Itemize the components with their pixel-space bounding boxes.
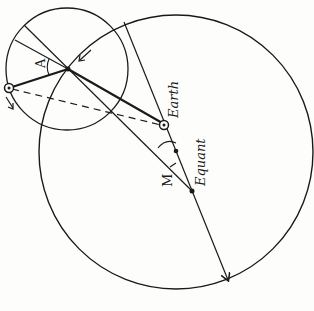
planet-marker-icon <box>5 84 14 93</box>
label-angle-a: A <box>33 58 48 69</box>
diagram-canvas: A Earth Equant M <box>0 0 314 311</box>
label-equant: Equant <box>193 138 208 187</box>
label-angle-m: M <box>160 174 175 187</box>
sight-line-dashed <box>12 89 161 125</box>
angle-m-pointer <box>170 163 176 167</box>
deferent-center-dot <box>174 149 179 154</box>
planet-radius-line <box>9 69 68 88</box>
earth-marker-icon <box>160 121 169 130</box>
epicycle-motion-arrow-icon <box>79 50 91 61</box>
planet-motion-arrow-icon <box>6 97 13 109</box>
label-earth: Earth <box>166 81 181 119</box>
equant-dot <box>190 189 195 194</box>
epicycle-center-dot <box>66 67 71 72</box>
epicycle-diagram: A Earth Equant M <box>0 0 314 311</box>
